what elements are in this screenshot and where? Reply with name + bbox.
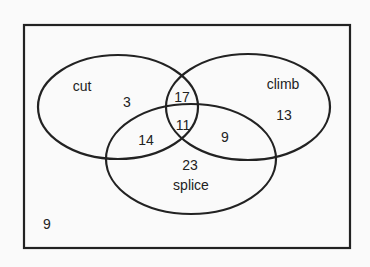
- region-cut-climb: 17: [174, 89, 190, 105]
- climb-set-label: climb: [267, 76, 300, 92]
- region-climb-splice: 9: [221, 129, 229, 145]
- venn-diagram: [0, 0, 370, 267]
- climb-ellipse: [166, 54, 330, 160]
- region-all-three: 11: [176, 117, 191, 133]
- cut-ellipse: [38, 55, 198, 159]
- region-outside: 9: [43, 216, 51, 232]
- region-climb-only: 13: [276, 107, 292, 123]
- region-cut-splice: 14: [138, 132, 154, 148]
- region-cut-only: 3: [123, 94, 131, 110]
- cut-set-label: cut: [73, 78, 92, 94]
- splice-set-label: splice: [173, 177, 209, 193]
- region-splice-only: 23: [182, 157, 198, 173]
